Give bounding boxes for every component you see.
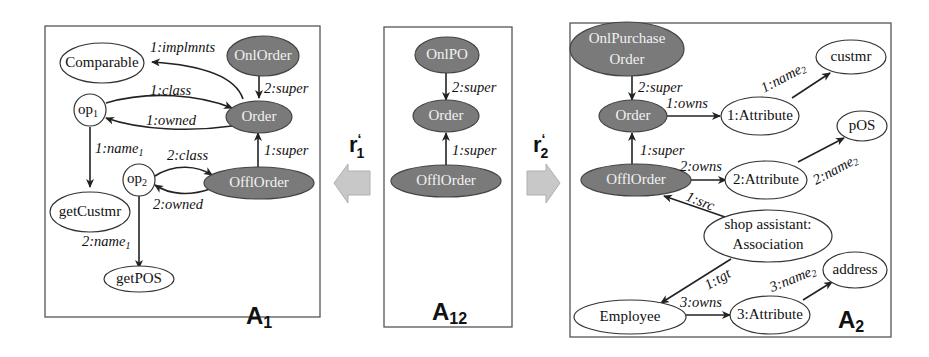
edge-label-owned2: 2:owned	[153, 196, 204, 212]
node-label-line1: shop assistant:	[724, 216, 811, 232]
node-address: address	[823, 252, 887, 288]
edge-label-name1-1: 1:name1	[95, 140, 144, 158]
diagram-canvas: Comparable OnlOrder Order op1 op2 OfflOr…	[0, 0, 929, 357]
node-onlorder: OnlOrder	[227, 36, 299, 76]
edge-label-owns2: 2:owns	[680, 158, 722, 174]
node-label-line1: OnlPurchase	[589, 30, 666, 46]
node-order: Order	[226, 101, 292, 133]
arrow-label-r1: r‘1	[349, 131, 364, 161]
node-label: Order	[242, 108, 277, 124]
node-onlpo: OnlPO	[415, 37, 479, 73]
edge-label-super1: 1:super	[264, 142, 309, 158]
node-onlpurchaseorder: OnlPurchase Order	[570, 22, 684, 76]
right-arrow-icon	[527, 164, 560, 203]
node-label: OfflOrder	[606, 171, 666, 187]
node-offlorder: OfflOrder	[581, 164, 691, 196]
node-label: address	[833, 261, 878, 277]
node-pos: pOS	[837, 111, 887, 141]
node-label: Order	[429, 107, 464, 123]
node-label: OnlOrder	[234, 47, 291, 63]
node-label: Order	[616, 107, 651, 123]
node-order: Order	[599, 100, 667, 132]
edge-label-owned1: 1:owned	[146, 112, 197, 128]
node-attribute-2: 2:Attribute	[725, 161, 807, 199]
node-custmr: custmr	[816, 40, 886, 74]
node-attribute-1: 1:Attribute	[721, 97, 799, 135]
panel-a2: OnlPurchase Order Order 1:Attribute cust…	[570, 22, 891, 337]
node-comparable: Comparable	[60, 43, 144, 83]
node-label: Comparable	[65, 54, 139, 70]
node-label: getPOS	[116, 270, 162, 286]
edge-label-super2: 2:super	[638, 79, 683, 95]
node-employee: Employee	[574, 300, 686, 334]
transformation-arrow-r1: r‘1	[334, 131, 370, 203]
arrow-label-r2: r‘2	[533, 131, 548, 161]
edge-label-implmnts: 1:implmnts	[150, 39, 216, 55]
node-attribute-3: 3:Attribute	[730, 296, 810, 334]
node-label: Employee	[600, 308, 661, 324]
node-offlorder: OfflOrder	[391, 165, 501, 197]
edge-label-super1: 1:super	[452, 142, 497, 158]
node-label: 2:Attribute	[733, 171, 799, 187]
node-label: OnlPO	[426, 46, 468, 62]
panel-a1: Comparable OnlOrder Order op1 op2 OfflOr…	[45, 26, 320, 331]
edge-label-owns3: 3:owns	[679, 294, 722, 310]
transformation-arrow-r2: r‘2	[527, 131, 560, 203]
left-arrow-icon	[334, 164, 370, 203]
node-label: 3:Attribute	[737, 306, 803, 322]
panel-a12: OnlPO Order OfflOrder 2:super 1:super A1…	[384, 27, 512, 327]
edge-label-name1-2: 2:name1	[82, 233, 131, 251]
node-label: pOS	[849, 117, 876, 133]
edge-label-super2: 2:super	[264, 80, 309, 96]
node-association: shop assistant: Association	[704, 210, 832, 262]
edge-label-owns1: 1:owns	[666, 95, 708, 111]
node-order: Order	[413, 100, 479, 132]
node-label-line2: Association	[733, 236, 804, 252]
node-label: OfflOrder	[416, 172, 476, 188]
edge-label-super1: 1:super	[640, 142, 685, 158]
node-label: OfflOrder	[229, 174, 289, 190]
node-getcustmr: getCustmr	[50, 192, 130, 232]
node-label: custmr	[831, 48, 872, 64]
node-getpos: getPOS	[104, 266, 174, 292]
node-label: getCustmr	[59, 203, 122, 219]
node-label-line2: Order	[610, 51, 645, 67]
node-offlorder: OfflOrder	[204, 167, 314, 199]
edge-label-super2: 2:super	[452, 79, 497, 95]
edge-label-class2: 2:class	[167, 147, 208, 163]
node-op1: op1	[74, 94, 106, 126]
node-label: 1:Attribute	[727, 107, 793, 123]
node-op2: op2	[123, 164, 155, 196]
edge-label-class1: 1:class	[150, 82, 191, 98]
